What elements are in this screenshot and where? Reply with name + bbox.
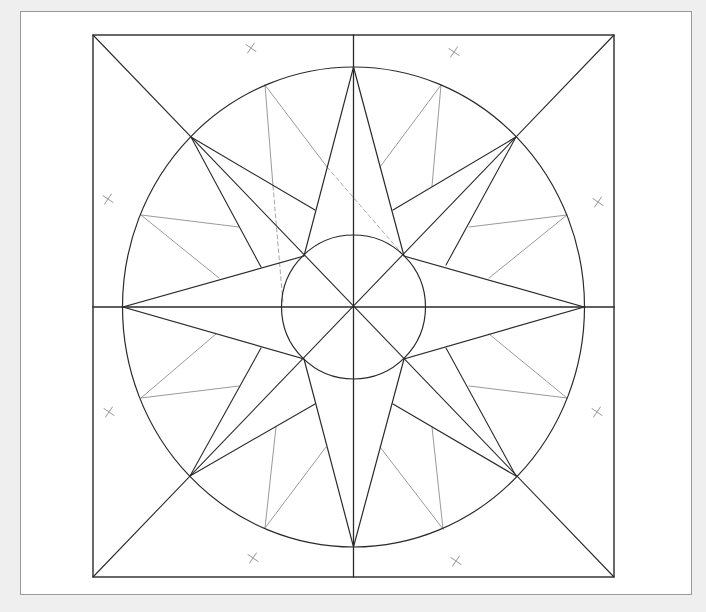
guide-line (141, 334, 216, 398)
secondary-star-line-ne (393, 137, 516, 210)
cross-arm (250, 553, 257, 563)
registration-mark-icon (446, 44, 463, 61)
registration-mark-icon (589, 404, 606, 421)
registration-mark-icon (101, 404, 118, 421)
registration-mark-icon (243, 40, 260, 57)
secondary-star-line-nw (191, 137, 315, 210)
guide-line (432, 85, 441, 186)
guide-line (265, 85, 273, 186)
guide-line (380, 85, 441, 167)
guide-line (489, 215, 567, 278)
guide-line (469, 386, 567, 398)
cross-arm (106, 407, 113, 417)
cross-arm (105, 194, 112, 204)
secondary-star-line-sw (190, 348, 261, 476)
guide-line (141, 386, 239, 398)
guide-line (141, 215, 239, 227)
guide-line (432, 427, 443, 529)
cross-arm (594, 407, 601, 417)
guide-line (265, 85, 327, 167)
registration-mark-icon (245, 550, 262, 567)
secondary-star-line-sw (190, 404, 315, 476)
dashed-lines-layer (273, 167, 404, 303)
registration-mark-icon (100, 191, 117, 208)
guide-line (265, 427, 276, 528)
registration-mark-icon (448, 553, 465, 570)
guide-line (469, 215, 567, 227)
cross-arm (451, 47, 458, 57)
secondary-star-line-se (393, 404, 516, 476)
secondary-star-line-se (446, 348, 516, 476)
registration-mark-icon (590, 194, 607, 211)
secondary-star-line-nw (191, 137, 261, 267)
cross-arm (248, 43, 255, 53)
compass-diagram (0, 0, 706, 612)
guide-line (380, 447, 443, 529)
dashed-construction-line (273, 186, 283, 303)
cross-arm (453, 556, 460, 566)
guide-line (141, 215, 219, 278)
structure-layer (93, 35, 614, 577)
guide-line (265, 447, 326, 528)
guide-line (489, 334, 567, 398)
secondary-star-line-ne (446, 137, 516, 265)
cross-arm (595, 197, 602, 207)
